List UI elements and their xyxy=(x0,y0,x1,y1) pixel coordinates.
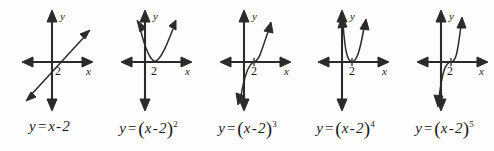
curve-upper-arrowhead xyxy=(457,17,466,28)
y-axis-bottom-arrowhead xyxy=(337,99,347,111)
equation-equals: = xyxy=(323,120,335,136)
graph-panel-1: 2 y x y=x-2 xyxy=(0,0,99,151)
curve-right-arrowhead xyxy=(169,20,176,30)
x-axis-label: x xyxy=(381,65,387,77)
x-axis-label: x xyxy=(283,65,289,77)
equation-inner-num: 2 xyxy=(159,120,167,136)
graph-panel-2: 2 y x y=(x-2)2 xyxy=(99,0,198,151)
y-axis-top-arrowhead xyxy=(239,10,249,22)
curve-upper-arrowhead xyxy=(80,30,90,39)
y-axis-label: y xyxy=(59,10,65,22)
coordinate-plane-1: 2 y x xyxy=(0,4,99,114)
equation-inner-op: - xyxy=(448,120,455,136)
y-axis-label: y xyxy=(448,10,454,22)
equation-label-4: y=(x-2)4 xyxy=(296,118,395,140)
equation-inner-num: 2 xyxy=(455,120,463,136)
equation-equals: = xyxy=(225,120,237,136)
equation-inner-op: - xyxy=(152,120,159,136)
equation-equals: = xyxy=(422,120,434,136)
y-axis-top-arrowhead xyxy=(47,10,57,22)
equation-lhs: y xyxy=(29,118,36,134)
equation-lhs: y xyxy=(119,120,126,136)
x-axis-left-arrowhead xyxy=(22,57,33,67)
equation-inner-x: x xyxy=(145,120,152,136)
equation-exponent: 3 xyxy=(272,119,277,129)
equation-lhs: y xyxy=(218,120,225,136)
equation-inner-x: x xyxy=(441,120,448,136)
x-axis-left-arrowhead xyxy=(318,57,329,67)
equation-label-5: y=(x-2)5 xyxy=(395,118,494,140)
x-axis-left-arrowhead xyxy=(417,57,428,67)
x-tick-label-2: 2 xyxy=(251,64,257,78)
equation-inner-num: 2 xyxy=(258,120,266,136)
curve-right-arrowhead xyxy=(360,19,369,30)
x-tick-label-2: 2 xyxy=(349,64,355,78)
curve-lower-arrowhead xyxy=(26,92,36,101)
equation-inner-op: - xyxy=(349,120,356,136)
x-tick-label-2: 2 xyxy=(151,64,157,78)
equation-lhs: y xyxy=(316,120,323,136)
equation-inner-op: - xyxy=(251,120,258,136)
equation-exponent: 5 xyxy=(469,119,474,129)
equation-exponent: 4 xyxy=(370,119,375,129)
x-tick-label-2: 2 xyxy=(55,64,61,78)
graph-panel-3: 2 y x y=(x-2)3 xyxy=(198,0,297,151)
x-axis-label: x xyxy=(184,65,190,77)
equation-exponent: 2 xyxy=(173,119,178,129)
coordinate-plane-2: 2 y x xyxy=(99,4,198,114)
coordinate-plane-5: 2 y x xyxy=(395,4,494,114)
equation-inner-num: 2 xyxy=(356,120,364,136)
equation-lhs: y xyxy=(415,120,422,136)
equation-label-1: y=x-2 xyxy=(0,118,99,135)
y-axis-label: y xyxy=(251,10,257,22)
equation-label-2: y=(x-2)2 xyxy=(99,118,198,140)
x-axis-label: x xyxy=(478,65,484,77)
x-axis-left-arrowhead xyxy=(220,57,231,67)
curve-quartic-degree-4 xyxy=(343,24,364,62)
x-axis-label: x xyxy=(85,65,91,77)
coordinate-plane-3: 2 y x xyxy=(198,4,297,114)
power-function-graph-figure: 2 y x y=x-2 xyxy=(0,0,494,151)
equation-label-3: y=(x-2)3 xyxy=(198,118,297,140)
y-axis-bottom-arrowhead xyxy=(47,99,57,111)
graph-panel-4: 2 y x y=(x-2)4 xyxy=(296,0,395,151)
y-axis-label: y xyxy=(349,10,355,22)
x-tick-label-2: 2 xyxy=(447,64,453,78)
x-axis-left-arrowhead xyxy=(121,57,132,67)
equation-inner-x: x xyxy=(342,120,349,136)
curve-upper-arrowhead xyxy=(264,22,273,33)
y-axis-top-arrowhead xyxy=(140,10,150,22)
equation-equals: = xyxy=(126,120,138,136)
equation-equals: = xyxy=(36,118,48,134)
graph-panel-5: 2 y x y=(x-2)5 xyxy=(395,0,494,151)
y-axis-label: y xyxy=(152,10,158,22)
y-axis-top-arrowhead xyxy=(436,10,446,22)
equation-inner-x: x xyxy=(244,120,251,136)
coordinate-plane-4: 2 y x xyxy=(296,4,395,114)
equation-inner-num: 2 xyxy=(62,118,70,134)
y-axis-bottom-arrowhead xyxy=(140,99,150,111)
